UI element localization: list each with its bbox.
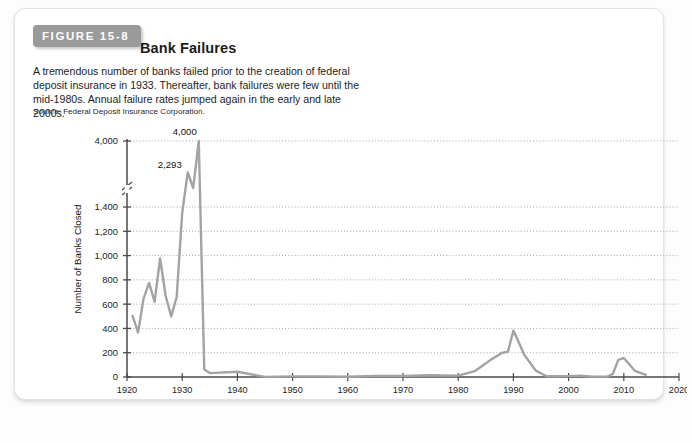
- x-axis-tick-label: 1990: [503, 385, 523, 395]
- x-axis-tick-label: 2010: [614, 385, 634, 395]
- x-axis-tick-label: 1970: [393, 385, 413, 395]
- y-axis-tick-label: 0: [113, 371, 118, 382]
- data-line-series: [133, 141, 646, 377]
- x-axis-tick-label: 1950: [282, 385, 302, 395]
- y-axis-title: Number of Banks Closed: [72, 205, 83, 314]
- x-axis-tick-label: 1980: [448, 385, 468, 395]
- figure-source: Source: Federal Deposit Insurance Corpor…: [33, 107, 205, 116]
- x-axis-tick-label: 1940: [227, 385, 247, 395]
- figure-page: FIGURE 15-8 Bank Failures A tremendous n…: [0, 0, 692, 443]
- y-axis-tick-label: 600: [102, 299, 118, 310]
- figure-title: Bank Failures: [140, 40, 236, 56]
- x-axis-tick-label: 1920: [117, 385, 137, 395]
- bank-failures-line-chart: 02004006008001,0001,2001,4004,0001920193…: [67, 127, 687, 399]
- data-annotation-label: 4,000: [173, 127, 197, 137]
- y-axis-tick-label: 1,400: [95, 201, 118, 212]
- x-axis-tick-label: 2000: [558, 385, 578, 395]
- x-axis-tick-label: 1930: [172, 385, 192, 395]
- y-axis-tick-label: 800: [102, 274, 118, 285]
- data-annotation-label: 2,293: [158, 159, 182, 170]
- y-axis-tick-label: 1,200: [95, 226, 118, 237]
- source-label: Source:: [33, 107, 61, 116]
- figure-card: FIGURE 15-8 Bank Failures A tremendous n…: [14, 8, 664, 400]
- y-axis-tick-label: 1,000: [95, 250, 118, 261]
- figure-number-tab: FIGURE 15-8: [33, 25, 141, 47]
- figure-number-label: FIGURE 15-8: [42, 30, 129, 42]
- chart-area: 02004006008001,0001,2001,4004,0001920193…: [67, 127, 687, 399]
- y-axis-tick-label: 400: [102, 323, 118, 334]
- y-axis-tick-label: 4,000: [95, 135, 118, 146]
- y-axis-tick-label: 200: [102, 347, 118, 358]
- x-axis-tick-label: 2020: [669, 385, 687, 395]
- source-text: Federal Deposit Insurance Corporation.: [63, 107, 205, 116]
- axis-break-gap: [125, 185, 129, 193]
- x-axis-tick-label: 1960: [338, 385, 358, 395]
